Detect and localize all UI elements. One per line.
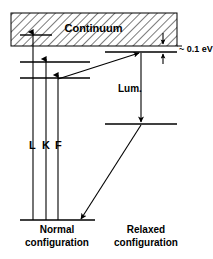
energy-gap-label: ~ 0.1 eV — [179, 45, 213, 54]
transition-label-L: L — [29, 140, 36, 151]
luminescence-label: Lum. — [118, 84, 142, 94]
arrow-relaxation — [58, 53, 139, 79]
continuum-label: Continuum — [0, 23, 187, 34]
transition-label-F: F — [55, 140, 62, 151]
axis-label-normal-line2: configuration — [8, 238, 106, 248]
return-arrow-group — [81, 125, 141, 219]
energy-level-diagram: Continuum ~ 0.1 eV Lum. L K F Normal con… — [0, 0, 213, 259]
excitation-arrows — [33, 32, 58, 220]
diagram-canvas — [0, 0, 213, 259]
transition-label-K: K — [42, 140, 50, 151]
axis-label-relaxed-line1: Relaxed — [102, 225, 190, 235]
arrow-return-to-ground — [81, 125, 141, 219]
axis-label-normal-line1: Normal — [14, 225, 100, 235]
relaxation-arrow-group — [58, 53, 139, 79]
axis-label-relaxed-line2: configuration — [96, 238, 196, 248]
